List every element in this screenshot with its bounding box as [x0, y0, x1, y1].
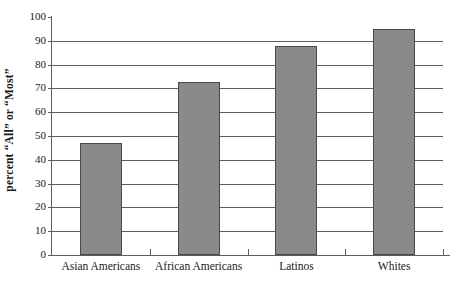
x-tick-mark [443, 249, 444, 255]
bar [178, 82, 220, 255]
y-tick-label: 80 [20, 59, 46, 70]
x-tick-label: African Americans [150, 259, 248, 273]
x-tick-mark [248, 249, 249, 255]
y-tick-mark [48, 184, 52, 185]
y-tick-mark [48, 112, 52, 113]
y-tick-label: 0 [20, 249, 46, 260]
bar [275, 46, 317, 255]
x-tick-mark [150, 249, 151, 255]
x-tick-label: Asian Americans [52, 259, 150, 273]
y-tick-label: 20 [20, 201, 46, 212]
y-tick-label: 90 [20, 35, 46, 46]
x-tick-label: Latinos [248, 259, 346, 273]
y-tick-label: 30 [20, 178, 46, 189]
y-tick-label: 60 [20, 106, 46, 117]
y-tick-mark [48, 41, 52, 42]
y-tick-label: 50 [20, 130, 46, 141]
y-tick-mark [48, 231, 52, 232]
x-tick-label: Whites [345, 259, 443, 273]
y-tick-mark [48, 207, 52, 208]
gridline [52, 255, 443, 256]
y-tick-label: 70 [20, 82, 46, 93]
y-tick-mark [48, 88, 52, 89]
y-tick-label: 10 [20, 225, 46, 236]
bar-chart: percent “All” or “Most” 0102030405060708… [0, 0, 455, 283]
y-tick-mark [48, 65, 52, 66]
y-tick-label: 100 [20, 11, 46, 22]
y-axis-title-text: percent “All” or “Most” [3, 68, 15, 191]
y-tick-mark [48, 136, 52, 137]
plot-area [52, 17, 443, 255]
bar [373, 29, 415, 255]
y-axis-tick-labels: 0102030405060708090100 [16, 0, 46, 283]
y-tick-mark [48, 255, 52, 256]
y-tick-mark [48, 17, 52, 18]
x-tick-mark [345, 249, 346, 255]
y-tick-mark [48, 160, 52, 161]
y-tick-label: 40 [20, 154, 46, 165]
bar [80, 143, 122, 255]
